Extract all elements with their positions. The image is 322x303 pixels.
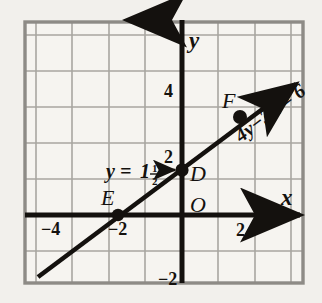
y-tick-label-minus2: −2 <box>158 269 177 289</box>
y-tick-label-4: 4 <box>164 81 173 101</box>
graph-figure: E D F O y x −4 −2 2 4 2 −2 y = 1 1 2 4y−… <box>0 0 322 303</box>
callout-whole-number: 1 <box>140 160 150 182</box>
origin-label: O <box>190 192 206 217</box>
x-tick-label-2: 2 <box>236 220 245 240</box>
point-d-label: D <box>189 161 206 186</box>
callout-fraction-numerator: 1 <box>152 162 158 174</box>
point-e-label: E <box>100 185 115 210</box>
x-tick-label-minus2: −2 <box>108 219 127 239</box>
coordinate-plane-svg: E D F O y x −4 −2 2 4 2 −2 y = 1 1 2 4y−… <box>0 0 322 303</box>
y-axis-label: y <box>186 28 200 53</box>
callout-fraction-denominator: 2 <box>152 175 158 187</box>
y-tick-label-2: 2 <box>164 147 173 167</box>
x-tick-label-minus4: −4 <box>41 219 60 239</box>
point-f-label: F <box>221 88 236 113</box>
x-axis-label: x <box>280 185 293 210</box>
point-d-marker <box>175 163 188 176</box>
callout-prefix: y = <box>104 160 131 183</box>
